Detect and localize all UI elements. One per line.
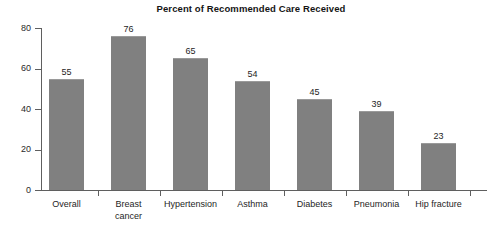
category-label: Hypertension bbox=[158, 199, 224, 211]
bar bbox=[111, 36, 146, 190]
bar-value-label: 55 bbox=[47, 67, 87, 77]
bar-value-label: 45 bbox=[295, 87, 335, 97]
bar-value-label: 23 bbox=[419, 131, 459, 141]
bar-chart: Percent of Recommended Care Received 020… bbox=[0, 0, 502, 238]
bar-value-label: 76 bbox=[109, 24, 149, 34]
bar bbox=[235, 81, 270, 190]
category-label: Overall bbox=[34, 199, 100, 211]
category-label-line: cancer bbox=[96, 211, 162, 223]
y-tick-mark bbox=[35, 109, 41, 110]
bar bbox=[359, 111, 394, 190]
bar bbox=[49, 79, 84, 190]
x-tick-mark bbox=[160, 191, 161, 196]
y-tick-mark bbox=[35, 150, 41, 151]
category-label-line: Hypertension bbox=[158, 199, 224, 211]
category-label-line: Overall bbox=[34, 199, 100, 211]
chart-title: Percent of Recommended Care Received bbox=[0, 3, 502, 15]
y-axis-line bbox=[41, 28, 42, 191]
x-tick-mark bbox=[98, 191, 99, 196]
y-tick-mark bbox=[35, 28, 41, 29]
category-label: Hip fracture bbox=[406, 199, 472, 211]
y-tick-mark bbox=[35, 190, 41, 191]
category-label-line: Diabetes bbox=[282, 199, 348, 211]
x-tick-mark bbox=[470, 191, 471, 196]
category-label: Pneumonia bbox=[344, 199, 410, 211]
bar bbox=[421, 143, 456, 190]
category-label-line: Breast bbox=[96, 199, 162, 211]
x-tick-mark bbox=[284, 191, 285, 196]
bar-value-label: 54 bbox=[233, 69, 273, 79]
x-tick-mark bbox=[222, 191, 223, 196]
y-tick-label: 40 bbox=[1, 105, 31, 114]
y-tick-label: 60 bbox=[1, 64, 31, 73]
bar-value-label: 65 bbox=[171, 46, 211, 56]
category-label-line: Hip fracture bbox=[406, 199, 472, 211]
bar bbox=[297, 99, 332, 190]
y-tick-label: 20 bbox=[1, 145, 31, 154]
y-tick-label: 0 bbox=[1, 186, 31, 195]
x-tick-mark bbox=[408, 191, 409, 196]
bar bbox=[173, 58, 208, 190]
category-label: Diabetes bbox=[282, 199, 348, 211]
category-label: Breastcancer bbox=[96, 199, 162, 222]
x-axis-line bbox=[41, 190, 487, 191]
y-tick-label: 80 bbox=[1, 24, 31, 33]
x-tick-mark bbox=[346, 191, 347, 196]
category-label-line: Asthma bbox=[220, 199, 286, 211]
bar-value-label: 39 bbox=[357, 99, 397, 109]
y-tick-mark bbox=[35, 69, 41, 70]
category-label: Asthma bbox=[220, 199, 286, 211]
category-label-line: Pneumonia bbox=[344, 199, 410, 211]
